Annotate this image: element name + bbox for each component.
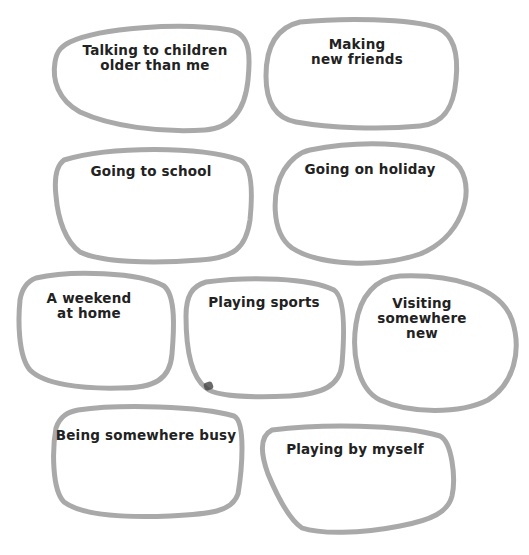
bubble-label: Making new friends: [311, 37, 403, 67]
bubble-label: Talking to children older than me: [83, 43, 228, 73]
bubble-label: Playing by myself: [286, 442, 424, 457]
bubble-being-somewhere-busy[interactable]: [54, 406, 244, 516]
bubble-label: Going on holiday: [304, 162, 435, 177]
cropped-text-fragment: [95, 0, 255, 3]
bubble-label: Visiting somewhere new: [369, 296, 476, 341]
bubble-label: Being somewhere busy: [56, 428, 236, 443]
worksheet-canvas: Talking to children older than me Making…: [0, 0, 529, 555]
bubble-label: Playing sports: [208, 295, 320, 310]
bubble-label: Going to school: [90, 164, 211, 179]
bubble-label: A weekend at home: [47, 291, 132, 321]
